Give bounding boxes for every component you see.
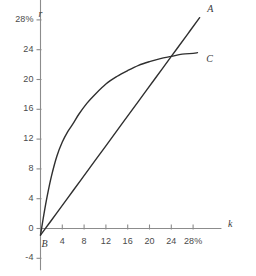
series-group xyxy=(41,18,200,236)
y-tick-label: 4 xyxy=(28,193,33,203)
x-axis-label: k xyxy=(228,218,232,229)
y-tick-label: 20 xyxy=(23,74,33,84)
series-label-c: C xyxy=(206,53,213,64)
y-tick-label: -4 xyxy=(25,252,33,262)
series-label-a: A xyxy=(207,3,213,14)
origin-point-label: B xyxy=(42,238,48,249)
axes-group xyxy=(41,0,222,270)
chart-container: r k -40481216202428%481216202428%ACB xyxy=(0,0,256,276)
y-tick-label: 28% xyxy=(15,14,33,24)
series-curve-a xyxy=(41,18,200,236)
y-tick-label: 24 xyxy=(23,44,33,54)
y-tick-label: 12 xyxy=(23,133,33,143)
y-tick-label: 8 xyxy=(28,163,33,173)
y-axis-label: r xyxy=(39,8,43,19)
x-tick-label: 28% xyxy=(179,236,207,246)
series-curve-c xyxy=(41,53,198,236)
y-tick-label: 0 xyxy=(28,223,33,233)
y-tick-label: 16 xyxy=(23,103,33,113)
